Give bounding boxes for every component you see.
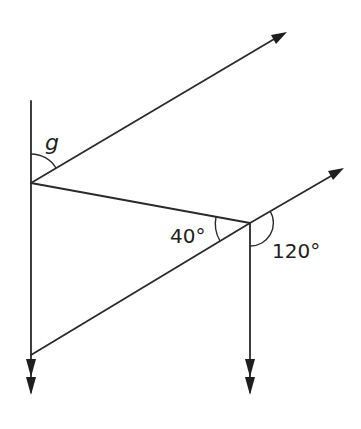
angle-120-label: 120° — [272, 239, 320, 263]
upper-ray-line — [31, 35, 281, 183]
left-double-arrow-upper-icon — [26, 359, 36, 377]
angle-g-arc — [31, 154, 56, 168]
lower-ray-arrow-icon — [328, 168, 344, 180]
angle-40-label: 40° — [170, 224, 205, 248]
lower-ray-line — [250, 172, 338, 223]
angle-diagram: g 40° 120° — [0, 0, 361, 429]
angle-g-label: g — [45, 130, 59, 155]
transversal-top-line — [31, 183, 250, 223]
angle-40-arc — [215, 217, 220, 241]
upper-ray-arrow-icon — [271, 32, 287, 44]
right-double-arrow-lower-icon — [245, 377, 255, 395]
right-double-arrow-upper-icon — [245, 359, 255, 377]
transversal-bottom-line — [31, 223, 250, 355]
left-double-arrow-lower-icon — [26, 377, 36, 395]
